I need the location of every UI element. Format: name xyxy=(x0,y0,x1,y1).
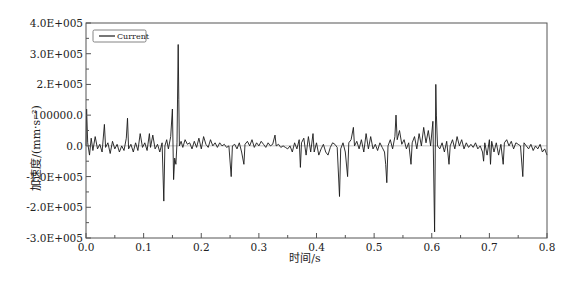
x-axis: 0.00.10.20.30.40.50.60.70.8 xyxy=(78,233,556,253)
y-tick-label: -3.0E+005 xyxy=(26,232,83,244)
x-axis-title: 时间/s xyxy=(289,252,321,265)
y-tick-label: 0.0 xyxy=(66,140,83,152)
legend-label: Current xyxy=(117,32,150,41)
y-tick-label: -2.0E+005 xyxy=(26,201,83,213)
series-line xyxy=(86,45,547,232)
x-tick-label: 0.5 xyxy=(366,241,383,253)
x-tick-label: 0.1 xyxy=(135,241,152,253)
x-tick-label: 0.7 xyxy=(481,241,498,253)
y-axis-title: 加速度/(mm·s⁻²) xyxy=(29,105,43,191)
y-tick-label: 4.0E+005 xyxy=(30,17,83,29)
x-tick-label: 0.8 xyxy=(539,241,556,253)
x-tick-label: 0.6 xyxy=(423,241,440,253)
x-tick-label: 0.3 xyxy=(251,241,268,253)
chart: 4.0E+0053.0E+0052.E+005100000.00.0-1.0E+… xyxy=(0,0,571,281)
data-series-current xyxy=(86,45,547,232)
y-tick-label: 2.E+005 xyxy=(36,78,83,90)
x-tick-label: 0.0 xyxy=(78,241,95,253)
plot-frame xyxy=(86,23,547,238)
x-tick-label: 0.2 xyxy=(193,241,210,253)
y-tick-label: 3.0E+005 xyxy=(30,48,83,60)
legend: Current xyxy=(93,30,150,42)
